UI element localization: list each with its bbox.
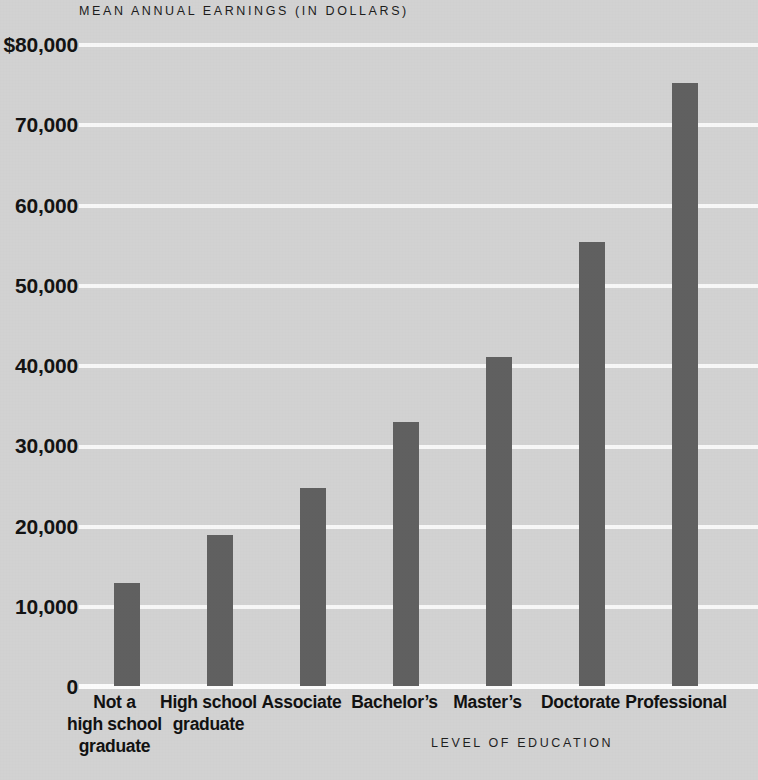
bar: [300, 488, 326, 686]
y-tick-label: 50,000: [0, 274, 78, 298]
bar: [207, 535, 233, 686]
y-tick-label: 20,000: [0, 515, 78, 539]
bar: [672, 83, 698, 686]
gridline: [79, 284, 758, 288]
y-tick-label: $80,000: [0, 33, 78, 57]
bar: [486, 357, 512, 686]
y-tick-label: 30,000: [0, 434, 78, 458]
bar: [393, 422, 419, 686]
gridline: [79, 123, 758, 127]
y-tick-label: 70,000: [0, 113, 78, 137]
gridline: [79, 204, 758, 208]
bar: [579, 242, 605, 686]
x-axis-title: LEVEL OF EDUCATION: [431, 736, 613, 750]
gridline: [79, 43, 758, 47]
gridline: [79, 364, 758, 368]
bar: [114, 583, 140, 686]
x-tick-label-line: Professional: [606, 691, 746, 713]
bar-chart: MEAN ANNUAL EARNINGS (IN DOLLARS) $80,00…: [0, 0, 758, 780]
y-tick-label: 60,000: [0, 194, 78, 218]
x-tick-label-line: graduate: [141, 713, 276, 735]
y-tick-label: 40,000: [0, 354, 78, 378]
x-tick-label-professional: Professional: [606, 691, 746, 713]
chart-title: MEAN ANNUAL EARNINGS (IN DOLLARS): [79, 4, 409, 18]
x-tick-label-line: graduate: [47, 735, 182, 757]
y-tick-label: 10,000: [0, 595, 78, 619]
plot-area: [79, 43, 758, 686]
